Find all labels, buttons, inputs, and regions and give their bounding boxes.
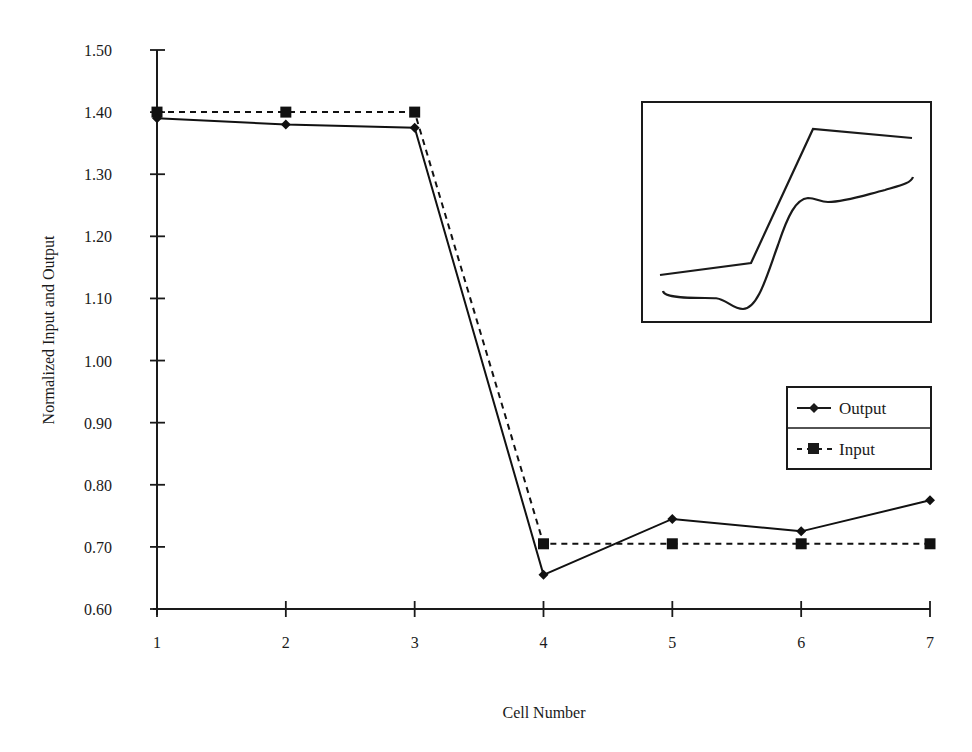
x-tick-label: 2 [282,634,290,651]
diamond-marker-icon [410,123,420,133]
y-tick-label: 1.10 [84,290,112,307]
y-tick-label: 1.30 [84,166,112,183]
y-tick-label: 1.50 [84,42,112,59]
diamond-marker-icon [539,570,549,580]
square-marker-icon [808,443,819,454]
x-tick-label: 4 [540,634,548,651]
diamond-marker-icon [925,495,935,505]
x-tick-label: 3 [411,634,419,651]
diamond-marker-icon [281,120,291,130]
square-marker-icon [409,107,420,118]
x-tick-label: 6 [797,634,805,651]
x-tick-label: 5 [668,634,676,651]
legend-label-input: Input [839,440,875,459]
legend: Output Input [787,387,931,469]
x-tick-label: 1 [153,634,161,651]
square-marker-icon [538,538,549,549]
y-tick-label: 0.70 [84,539,112,556]
diamond-marker-icon [667,514,677,524]
y-tick-label: 1.20 [84,228,112,245]
x-axis-title: Cell Number [502,704,586,721]
y-tick-label: 1.00 [84,353,112,370]
square-marker-icon [280,107,291,118]
legend-label-output: Output [839,399,887,418]
x-tick-label: 7 [926,634,934,651]
square-marker-icon [667,538,678,549]
inset-plot [642,102,931,322]
y-tick-label: 0.60 [84,601,112,618]
diamond-marker-icon [796,526,806,536]
square-marker-icon [925,538,936,549]
square-marker-icon [796,538,807,549]
y-tick-label: 1.40 [84,104,112,121]
y-axis: 0.600.700.800.901.001.101.201.301.401.50 [84,42,165,618]
x-axis: 1234567 [153,601,934,651]
line-chart: 0.600.700.800.901.001.101.201.301.401.50… [0,0,972,752]
y-tick-label: 0.80 [84,477,112,494]
y-axis-title: Normalized Input and Output [40,235,58,424]
y-tick-label: 0.90 [84,415,112,432]
